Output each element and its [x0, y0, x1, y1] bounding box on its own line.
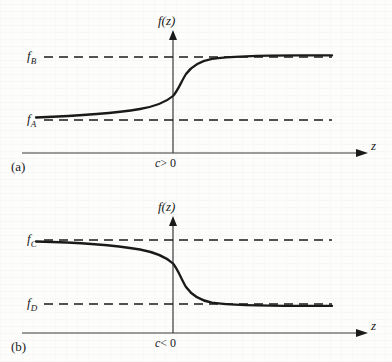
panel-a-curve: [36, 55, 332, 117]
panel-b-x-axis-arrowhead: [356, 329, 368, 337]
figure-svg: [0, 0, 392, 362]
panel-a-y-axis-arrowhead: [169, 30, 177, 40]
panel-b-tag: (b): [11, 340, 26, 353]
panel-a: [22, 30, 368, 157]
panel-b-y-axis-arrowhead: [169, 216, 177, 226]
panel-b-condition-label: c< 0: [155, 337, 176, 349]
panel-a-y-axis-label: f(z): [158, 14, 175, 27]
panel-a-lower-asymptote-subscript: A: [31, 119, 37, 129]
panel-b: [22, 216, 368, 337]
panel-b-lower-asymptote-subscript: D: [31, 303, 38, 313]
panel-b-curve: [36, 242, 332, 306]
panel-a-upper-asymptote-subscript: B: [31, 56, 37, 66]
panel-b-condition-rest: < 0: [160, 336, 176, 350]
panel-b-y-axis-label: f(z): [158, 200, 175, 213]
panel-b-upper-asymptote-subscript: C: [31, 239, 37, 249]
panel-a-condition-rest: > 0: [160, 156, 176, 170]
panel-a-x-axis-arrowhead: [356, 149, 368, 157]
figure-container: f(z) z fB fA c> 0 (a) f(z) z fC fD c< 0 …: [0, 0, 392, 362]
panel-a-lower-asymptote-label: fA: [27, 112, 36, 129]
panel-b-x-axis-label: z: [371, 319, 376, 332]
panel-a-condition-label: c> 0: [155, 157, 176, 169]
panel-a-upper-asymptote-label: fB: [27, 49, 36, 66]
panel-b-upper-asymptote-label: fC: [27, 232, 37, 249]
panel-a-tag: (a): [11, 160, 25, 173]
panel-a-x-axis-label: z: [371, 139, 376, 152]
panel-b-lower-asymptote-label: fD: [27, 296, 37, 313]
